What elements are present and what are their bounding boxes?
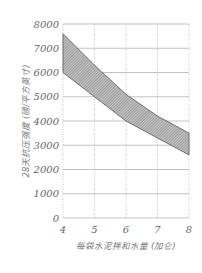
y-tick-label: 8000: [34, 19, 60, 30]
y-tick-label: 3000: [34, 140, 60, 151]
y-tick-label: 6000: [34, 67, 60, 78]
y-axis-label: 28天抗压强度 (磅/平方英寸): [21, 64, 31, 177]
x-tick-label: 6: [123, 224, 130, 235]
y-axis-ticks: 010002000300040005000600070008000: [33, 19, 60, 224]
strength-vs-water-chart: 010002000300040005000600070008000 45678 …: [0, 0, 202, 273]
x-tick-label: 8: [186, 224, 192, 235]
y-tick-label: 7000: [34, 43, 60, 54]
x-tick-label: 7: [154, 224, 161, 235]
x-tick-label: 4: [59, 224, 66, 235]
x-tick-label: 5: [91, 224, 97, 235]
y-tick-label: 5000: [34, 91, 60, 102]
y-tick-label: 4000: [33, 116, 60, 127]
x-axis-ticks: 45678: [59, 224, 192, 235]
x-axis-label: 每袋水泥拌和水量 (加仑): [76, 241, 175, 251]
y-tick-label: 1000: [34, 188, 60, 199]
y-tick-label: 0: [53, 213, 60, 224]
y-tick-label: 2000: [33, 164, 60, 175]
